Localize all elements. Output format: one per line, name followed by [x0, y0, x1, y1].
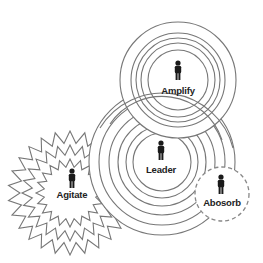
absorb-label: Abosorb — [203, 197, 241, 208]
leadership-diagram: Amplify Leader Agitate Abosorb — [0, 0, 263, 263]
amplify-node — [120, 22, 236, 138]
amplify-label: Amplify — [161, 85, 195, 96]
leader-label: Leader — [146, 164, 176, 175]
agitate-label: Agitate — [57, 189, 88, 200]
amplify-ring-inner — [148, 50, 208, 110]
